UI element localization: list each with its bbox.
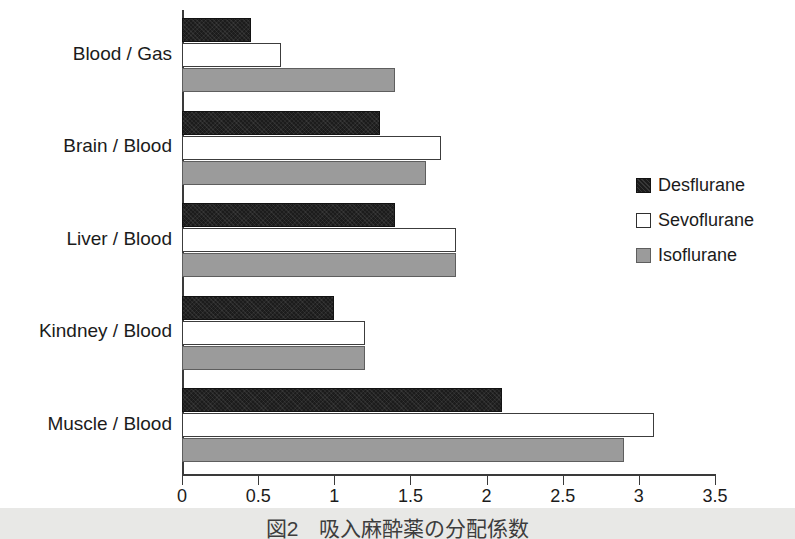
category-label-blood-gas: Blood / Gas xyxy=(0,43,172,65)
x-tick-0 xyxy=(182,476,183,485)
x-tick-3 xyxy=(410,476,411,485)
x-tick-label-0: 0 xyxy=(177,486,187,507)
x-tick-label-2: 1 xyxy=(329,486,339,507)
bar-brain-blood-sevoflurane xyxy=(182,136,441,160)
x-tick-label-3: 1.5 xyxy=(398,486,423,507)
chart-legend: DesfluraneSevofluraneIsoflurane xyxy=(636,168,754,273)
x-tick-4 xyxy=(487,476,488,485)
x-tick-label-4: 2 xyxy=(482,486,492,507)
bar-brain-blood-isoflurane xyxy=(182,161,426,185)
bar-kindney-blood-sevoflurane xyxy=(182,321,365,345)
category-label-muscle-blood: Muscle / Blood xyxy=(0,413,172,435)
bar-group-blood-gas xyxy=(182,18,715,93)
legend-label-isoflurane: Isoflurane xyxy=(658,245,737,266)
category-label-kindney-blood: Kindney / Blood xyxy=(0,320,172,342)
bar-liver-blood-isoflurane xyxy=(182,253,456,277)
legend-item-isoflurane: Isoflurane xyxy=(636,238,754,273)
x-tick-6 xyxy=(639,476,640,485)
figure-caption: 図2 吸入麻酔薬の分配係数 xyxy=(0,512,795,539)
category-label-brain-blood: Brain / Blood xyxy=(0,135,172,157)
bar-brain-blood-desflurane xyxy=(182,111,380,135)
x-tick-1 xyxy=(258,476,259,485)
x-tick-5 xyxy=(563,476,564,485)
x-tick-label-5: 2.5 xyxy=(550,486,575,507)
bar-muscle-blood-isoflurane xyxy=(182,438,624,462)
x-tick-label-1: 0.5 xyxy=(246,486,271,507)
bar-liver-blood-desflurane xyxy=(182,203,395,227)
legend-label-sevoflurane: Sevoflurane xyxy=(658,210,754,231)
bar-muscle-blood-sevoflurane xyxy=(182,413,654,437)
legend-swatch-desflurane xyxy=(636,178,651,193)
legend-swatch-sevoflurane xyxy=(636,213,651,228)
category-label-liver-blood: Liver / Blood xyxy=(0,228,172,250)
legend-swatch-isoflurane xyxy=(636,248,651,263)
legend-label-desflurane: Desflurane xyxy=(658,175,745,196)
x-tick-label-6: 3 xyxy=(634,486,644,507)
figure-container: Blood / GasBrain / BloodLiver / BloodKin… xyxy=(0,0,795,539)
bar-kindney-blood-isoflurane xyxy=(182,346,365,370)
legend-item-sevoflurane: Sevoflurane xyxy=(636,203,754,238)
value-axis-line xyxy=(182,474,716,476)
legend-item-desflurane: Desflurane xyxy=(636,168,754,203)
bar-blood-gas-desflurane xyxy=(182,18,251,42)
bar-group-muscle-blood xyxy=(182,388,715,463)
bar-liver-blood-sevoflurane xyxy=(182,228,456,252)
bar-group-kindney-blood xyxy=(182,296,715,371)
bar-blood-gas-isoflurane xyxy=(182,68,395,92)
bar-muscle-blood-desflurane xyxy=(182,388,502,412)
x-tick-label-7: 3.5 xyxy=(702,486,727,507)
x-tick-2 xyxy=(334,476,335,485)
x-tick-7 xyxy=(715,476,716,485)
bar-kindney-blood-desflurane xyxy=(182,296,334,320)
bar-blood-gas-sevoflurane xyxy=(182,43,281,67)
